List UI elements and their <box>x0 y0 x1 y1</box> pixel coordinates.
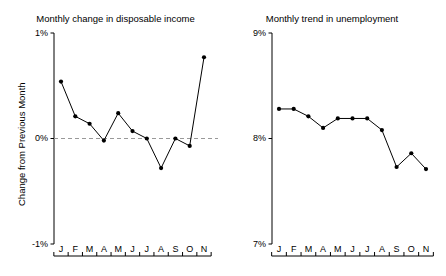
figure-canvas: Monthly change in disposable income Chan… <box>0 0 446 276</box>
data-point-marker <box>424 167 428 171</box>
y-tick-label: 1% <box>8 29 48 38</box>
data-point-marker <box>395 165 399 169</box>
data-point-marker <box>188 144 192 148</box>
data-point-marker <box>130 129 134 133</box>
data-point-marker <box>292 107 296 111</box>
data-point-marker <box>321 126 325 130</box>
data-point-marker <box>306 114 310 118</box>
x-tick-label: N <box>194 245 214 254</box>
y-tick-label: 9% <box>226 29 266 38</box>
chart-panel-disposable-income: Monthly change in disposable income Chan… <box>0 0 223 276</box>
data-point-marker <box>88 122 92 126</box>
data-point-marker <box>73 114 77 118</box>
y-tick-label: 7% <box>226 240 266 249</box>
x-tick-label: N <box>416 245 436 254</box>
data-point-marker <box>365 116 369 120</box>
chart-panel-unemployment: Monthly trend in unemployment Unemployme… <box>223 0 446 276</box>
data-point-marker <box>173 136 177 140</box>
data-point-marker <box>145 136 149 140</box>
data-point-marker <box>336 116 340 120</box>
series-line <box>61 57 204 168</box>
data-point-marker <box>116 111 120 115</box>
y-tick-label: 8% <box>226 134 266 143</box>
data-point-marker <box>202 55 206 59</box>
data-point-marker <box>59 79 63 83</box>
data-point-marker <box>350 116 354 120</box>
y-tick-label: -1% <box>8 240 48 249</box>
data-point-marker <box>409 151 413 155</box>
y-tick-label: 0% <box>8 134 48 143</box>
data-point-marker <box>102 139 106 143</box>
data-point-marker <box>277 107 281 111</box>
data-point-marker <box>380 128 384 132</box>
data-point-marker <box>159 166 163 170</box>
